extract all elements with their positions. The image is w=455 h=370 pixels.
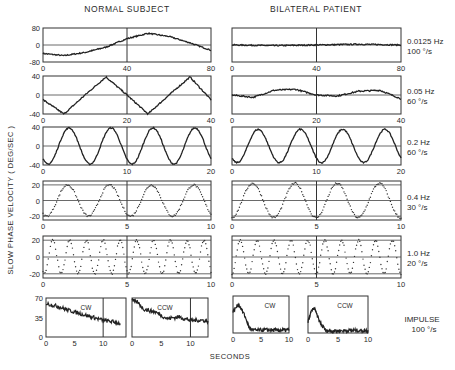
data-point bbox=[259, 245, 260, 246]
data-point bbox=[200, 191, 201, 192]
data-point bbox=[210, 214, 211, 215]
y-tick-label: 0 bbox=[36, 91, 40, 100]
data-point bbox=[151, 247, 152, 248]
data-point bbox=[255, 184, 256, 185]
data-point bbox=[79, 204, 80, 205]
data-point bbox=[145, 272, 146, 273]
panel-normal-0.4Hz bbox=[42, 181, 211, 220]
data-point bbox=[233, 217, 234, 218]
panel-frame bbox=[233, 296, 289, 333]
data-point bbox=[51, 212, 52, 213]
x-tick-label: 5 bbox=[336, 335, 340, 344]
data-point bbox=[81, 207, 82, 208]
data-point bbox=[114, 187, 115, 188]
data-point bbox=[190, 255, 191, 256]
data-point bbox=[306, 204, 307, 205]
data-point bbox=[140, 202, 141, 203]
data-point bbox=[138, 244, 139, 245]
data-point bbox=[97, 265, 98, 266]
data-point bbox=[143, 271, 144, 272]
data-point bbox=[86, 240, 87, 241]
data-point bbox=[327, 196, 328, 197]
data-point bbox=[180, 270, 181, 271]
data-point bbox=[265, 274, 266, 275]
data-point bbox=[380, 264, 381, 265]
data-point bbox=[389, 198, 390, 199]
data-point bbox=[301, 267, 302, 268]
data-point bbox=[351, 272, 352, 273]
data-point bbox=[324, 239, 325, 240]
data-point bbox=[251, 261, 252, 262]
y-tick-label: -40 bbox=[29, 161, 40, 170]
data-point bbox=[275, 217, 276, 218]
data-point bbox=[356, 245, 357, 246]
data-point bbox=[70, 239, 71, 240]
panel-normal-1.0Hz bbox=[42, 236, 211, 278]
data-point bbox=[305, 243, 306, 244]
row-label-velocity: 60 °/s bbox=[407, 97, 428, 106]
data-point bbox=[279, 211, 280, 212]
data-point bbox=[375, 186, 376, 187]
data-point bbox=[267, 210, 268, 211]
x-tick-label: 5 bbox=[72, 339, 76, 348]
data-point bbox=[348, 268, 349, 269]
data-point bbox=[62, 188, 63, 189]
data-point bbox=[369, 198, 370, 199]
data-point bbox=[119, 199, 120, 200]
y-tick-label: 40 bbox=[32, 72, 40, 81]
data-point bbox=[283, 200, 284, 201]
panel-normal-0.05Hz bbox=[43, 76, 211, 114]
data-point bbox=[56, 201, 57, 202]
y-tick-label: 0 bbox=[36, 41, 40, 50]
data-point bbox=[386, 268, 387, 269]
data-point bbox=[185, 243, 186, 244]
data-point bbox=[372, 191, 373, 192]
data-point bbox=[81, 259, 82, 260]
data-point bbox=[207, 209, 208, 210]
data-point bbox=[252, 255, 253, 256]
data-point bbox=[241, 202, 242, 203]
data-point bbox=[393, 241, 394, 242]
x-tick-label: 10 bbox=[186, 339, 194, 348]
data-point bbox=[270, 216, 271, 217]
data-point bbox=[269, 214, 270, 215]
data-point bbox=[187, 189, 188, 190]
figure-canvas: NORMAL SUBJECTBILATERAL PATIENTSLOW PHAS… bbox=[0, 0, 455, 370]
data-point bbox=[369, 267, 370, 268]
data-point bbox=[175, 261, 176, 262]
data-point bbox=[42, 213, 43, 214]
data-point bbox=[321, 212, 322, 213]
data-point bbox=[391, 204, 392, 205]
data-point bbox=[329, 258, 330, 259]
x-tick-label: 0 bbox=[41, 167, 45, 176]
data-point bbox=[362, 258, 363, 259]
x-tick-label: 5 bbox=[314, 222, 318, 231]
data-point bbox=[45, 270, 46, 271]
data-point bbox=[155, 187, 156, 188]
data-point bbox=[283, 271, 284, 272]
data-point bbox=[368, 202, 369, 203]
row-label-impulse: IMPULSE bbox=[404, 315, 439, 324]
data-point bbox=[325, 241, 326, 242]
data-point bbox=[82, 251, 83, 252]
data-point bbox=[242, 199, 243, 200]
data-point bbox=[261, 195, 262, 196]
data-point bbox=[362, 213, 363, 214]
data-point bbox=[115, 189, 116, 190]
data-point bbox=[266, 208, 267, 209]
data-point bbox=[255, 244, 256, 245]
data-point bbox=[151, 184, 152, 185]
data-point bbox=[93, 271, 94, 272]
data-point bbox=[163, 271, 164, 272]
data-point bbox=[138, 206, 139, 207]
data-point bbox=[208, 211, 209, 212]
data-point bbox=[252, 183, 253, 184]
data-point bbox=[76, 270, 77, 271]
data-point bbox=[78, 201, 79, 202]
data-point bbox=[91, 214, 92, 215]
x-tick-label: 0 bbox=[230, 116, 234, 125]
y-tick-label: 0 bbox=[36, 197, 40, 206]
data-point bbox=[122, 247, 123, 248]
y-tick-label: 0 bbox=[36, 142, 40, 151]
data-point bbox=[320, 213, 321, 214]
